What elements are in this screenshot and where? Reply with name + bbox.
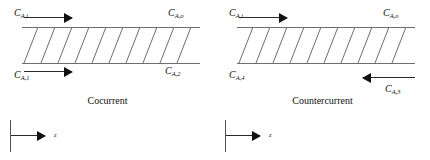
axis-arrow xyxy=(11,131,45,141)
flow-arrow-top-cocurrent xyxy=(24,13,72,23)
arrow-head-right-icon xyxy=(279,13,288,23)
arrow-head-right-icon xyxy=(37,131,46,141)
arrow-head-left-icon xyxy=(362,73,371,83)
flow-arrow-bottom-cocurrent xyxy=(24,67,72,77)
channel-wall-bottom xyxy=(237,63,415,64)
axis-arrow xyxy=(226,131,260,141)
concentration-label-stream4: CA,4 xyxy=(229,70,245,82)
concentration-label-stream1: CA,1 xyxy=(14,70,30,82)
arrow-head-right-icon xyxy=(64,67,73,77)
flow-arrow-top-countercurrent xyxy=(239,13,287,23)
hatch-lines-svg xyxy=(22,27,200,63)
channel-wall-bottom xyxy=(22,63,200,64)
diagram-panel-countercurrent: CA,i CA,o xyxy=(215,0,430,160)
z-axis-indicator-left: z xyxy=(10,120,80,154)
channel-hatching xyxy=(22,27,200,63)
flow-channel-cocurrent xyxy=(22,27,200,63)
arrow-head-right-icon xyxy=(64,13,73,23)
concentration-label-stream3: CA,3 xyxy=(385,84,401,96)
panel-caption-countercurrent: Countercurrent xyxy=(215,95,430,106)
panel-caption-cocurrent: Cocurrent xyxy=(0,95,215,106)
concentration-label-outlet-top: CA,o xyxy=(383,8,399,20)
z-axis-indicator-right: z xyxy=(225,120,295,154)
flow-arrow-bottom-countercurrent xyxy=(363,73,415,83)
arrow-head-right-icon xyxy=(252,131,261,141)
concentration-label-stream2: CA,2 xyxy=(165,66,181,78)
channel-hatching xyxy=(237,27,415,63)
hatch-lines-svg xyxy=(237,27,415,63)
concentration-label-outlet-top: CA,o xyxy=(168,8,184,20)
axis-label-z: z xyxy=(269,131,272,138)
flow-channel-countercurrent xyxy=(237,27,415,63)
axis-label-z: z xyxy=(54,131,57,138)
diagram-panel-cocurrent: CA,i CA,o xyxy=(0,0,215,160)
